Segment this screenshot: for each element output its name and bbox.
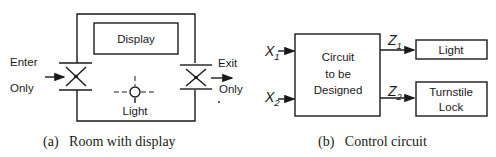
light-label: Light — [123, 105, 149, 117]
room-figure: Display Enter Only Exit Only — [10, 14, 243, 150]
exit-label-line2: Only — [219, 83, 243, 95]
stray-dot — [218, 101, 220, 103]
diagram-canvas: Display Enter Only Exit Only — [0, 0, 496, 157]
output-z2-label: Z2 — [387, 83, 403, 102]
circuit-label-line1: Circuit — [322, 51, 355, 63]
caption-b: (b) Control circuit — [318, 134, 427, 150]
entry-label-line2: Only — [10, 82, 34, 94]
control-circuit-figure: Circuit to be Designed X1 X2 Z1 Light Z2… — [264, 32, 487, 150]
display-label: Display — [117, 33, 155, 45]
light-bulb-icon — [114, 76, 156, 103]
exit-turnstile-icon — [180, 65, 212, 89]
circuit-label-line2: to be — [325, 68, 351, 80]
turnstile-lock-label-line2: Lock — [439, 101, 464, 113]
light-box-label: Light — [439, 44, 465, 56]
turnstile-lock-label-line1: Turnstile — [429, 86, 473, 98]
exit-label-line1: Exit — [218, 57, 238, 69]
circuit-label-line3: Designed — [314, 84, 363, 96]
output-z1-label: Z1 — [387, 32, 402, 51]
input-x2-label: X2 — [264, 89, 280, 108]
entry-label-line1: Enter — [10, 56, 38, 68]
input-x1-label: X1 — [264, 43, 280, 62]
caption-a: (a) Room with display — [43, 134, 176, 150]
